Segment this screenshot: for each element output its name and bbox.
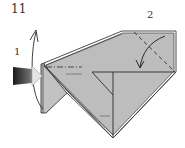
model-body [44, 31, 176, 138]
sub-step-2-label: 2 [147, 10, 153, 20]
folded-model-drawing [0, 0, 185, 148]
push-arrow-icon [13, 66, 42, 86]
step-number: 11 [11, 3, 26, 15]
sub-step-1-label: 1 [14, 47, 20, 57]
origami-step-diagram: 11 1 2 [0, 0, 185, 148]
